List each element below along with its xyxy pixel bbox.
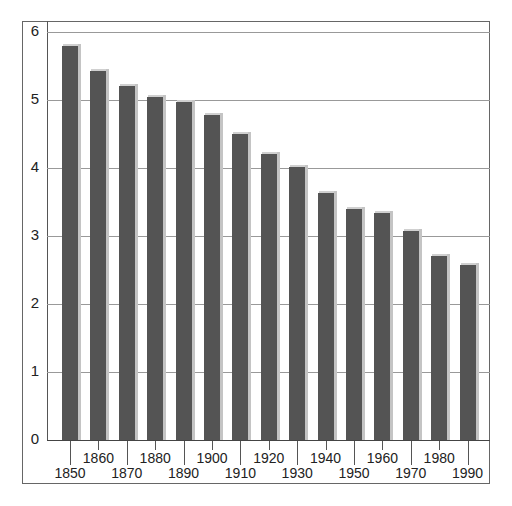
x-tick (184, 441, 185, 465)
bar-1990 (460, 265, 476, 440)
y-tick-label: 6 (28, 23, 42, 39)
gridline (47, 100, 490, 101)
bar-1930 (289, 167, 305, 440)
x-tick-label: 1920 (249, 451, 289, 465)
x-tick (269, 441, 270, 450)
x-tick-label: 1950 (334, 466, 374, 480)
x-tick (411, 441, 412, 465)
x-tick-label: 1900 (192, 451, 232, 465)
x-tick (240, 441, 241, 465)
x-tick-label: 1960 (362, 451, 402, 465)
bar-1900 (204, 115, 220, 440)
bar-1860 (90, 71, 106, 440)
x-tick-label: 1890 (164, 466, 204, 480)
x-tick (297, 441, 298, 465)
x-tick-label: 1980 (419, 451, 459, 465)
x-tick (127, 441, 128, 465)
bar-1850 (62, 46, 78, 440)
x-tick (382, 441, 383, 450)
bar-1870 (119, 86, 135, 440)
bar-1970 (403, 231, 419, 440)
x-tick-label: 1860 (78, 451, 118, 465)
plot-area (47, 32, 490, 440)
y-tick-label: 0 (28, 431, 42, 447)
y-tick-label: 3 (28, 227, 42, 243)
y-tick-label: 4 (28, 159, 42, 175)
gridline (47, 32, 490, 33)
x-tick-label: 1970 (391, 466, 431, 480)
bar-1890 (176, 102, 192, 440)
bar-1950 (346, 209, 362, 440)
x-tick (70, 441, 71, 465)
x-tick (212, 441, 213, 450)
bar-1980 (431, 256, 447, 440)
x-tick (354, 441, 355, 465)
y-tick-label: 1 (28, 363, 42, 379)
x-tick-label: 1850 (50, 466, 90, 480)
x-tick-label: 1910 (220, 466, 260, 480)
x-tick (326, 441, 327, 450)
x-tick (439, 441, 440, 450)
x-tick-label: 1990 (448, 466, 488, 480)
y-tick-label: 2 (28, 295, 42, 311)
x-tick-label: 1930 (277, 466, 317, 480)
x-tick (155, 441, 156, 450)
bar-1880 (147, 97, 163, 440)
x-tick (98, 441, 99, 450)
bar-1920 (261, 154, 277, 440)
x-tick-label: 1870 (107, 466, 147, 480)
bar-1910 (232, 134, 248, 440)
x-tick-label: 1880 (135, 451, 175, 465)
x-tick (468, 441, 469, 465)
y-tick-label: 5 (28, 91, 42, 107)
bar-1960 (374, 213, 390, 440)
bar-1940 (318, 193, 334, 440)
x-tick-label: 1940 (306, 451, 346, 465)
